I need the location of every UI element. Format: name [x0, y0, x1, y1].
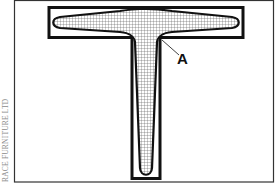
casting-hatched-region	[53, 9, 239, 175]
photo-credit: RACE FURNITURE LTD	[1, 99, 10, 182]
mould-diagram: A	[0, 0, 276, 187]
callout-label-a: A	[177, 50, 188, 67]
